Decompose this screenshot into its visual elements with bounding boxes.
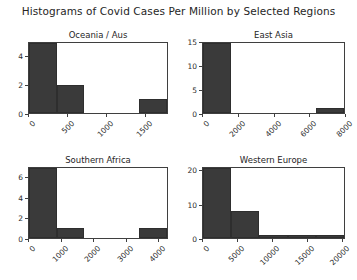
histogram-bar [288,235,316,238]
bar-series [29,168,167,238]
y-tick-label: 10 [178,200,197,209]
y-tick-label: 6 [4,173,23,182]
y-tick-mark [25,85,28,86]
x-tick-mark [345,114,346,117]
x-tick-mark [202,239,203,242]
histogram-bar [57,85,85,113]
x-tick-mark [145,114,146,117]
histogram-bar [139,99,167,113]
x-tick-mark [272,239,273,242]
histogram-bar [259,235,287,238]
figure-title: Histograms of Covid Cases Per Million by… [0,5,357,17]
histogram-bar [29,43,57,113]
x-tick-mark [93,239,94,242]
bar-series [203,43,344,113]
y-tick-mark [25,177,28,178]
x-tick-mark [309,114,310,117]
subplot-title: Southern Africa [28,155,168,165]
x-tick-mark [238,114,239,117]
bar-series [203,168,344,238]
y-tick-label: 10 [178,62,197,71]
x-tick-mark [158,239,159,242]
y-tick-label: 2 [4,81,23,90]
y-tick-mark [199,170,202,171]
y-tick-mark [199,66,202,67]
y-tick-label: 0 [4,235,23,244]
y-tick-label: 4 [4,193,23,202]
subplot-title: East Asia [202,30,345,40]
x-tick-label: 0 [163,244,212,280]
y-tick-mark [199,42,202,43]
x-tick-mark [274,114,275,117]
y-tick-mark [25,56,28,57]
subplot-2: East Asia05101502000400060008000 [202,30,345,154]
bar-series [29,43,167,113]
histogram-bar [316,108,344,113]
x-tick-mark [28,114,29,117]
x-tick-mark [342,239,343,242]
subplot-title: Western Europe [202,155,345,165]
x-tick-mark [106,114,107,117]
y-tick-mark [25,218,28,219]
y-tick-label: 15 [178,38,197,47]
x-tick-mark [126,239,127,242]
y-tick-mark [25,198,28,199]
histogram-bar [57,228,85,238]
y-tick-label: 2 [4,214,23,223]
plot-area [202,167,345,239]
histogram-bar [203,43,231,113]
histogram-bar [231,211,259,238]
x-tick-mark [307,239,308,242]
y-tick-mark [199,205,202,206]
y-tick-label: 5 [178,86,197,95]
y-tick-label: 0 [178,110,197,119]
subplot-3: Southern Africa024601000200030004000 [28,155,168,279]
subplot-4: Western Europe0102005000100001500020000 [202,155,345,279]
subplot-1: Oceania / Aus024050010001500 [28,30,168,154]
y-tick-label: 0 [178,235,197,244]
x-tick-mark [202,114,203,117]
plot-area [28,42,168,114]
y-tick-label: 4 [4,52,23,61]
y-tick-label: 0 [4,110,23,119]
plot-area [202,42,345,114]
histogram-bar [203,168,231,238]
histogram-bar [316,235,344,238]
x-tick-mark [28,239,29,242]
x-tick-mark [61,239,62,242]
y-tick-mark [199,90,202,91]
histogram-bar [29,168,57,238]
histogram-bar [139,228,167,238]
y-tick-label: 20 [178,166,197,175]
subplot-title: Oceania / Aus [28,30,168,40]
x-tick-mark [237,239,238,242]
figure-canvas: Histograms of Covid Cases Per Million by… [0,0,357,280]
x-tick-mark [67,114,68,117]
plot-area [28,167,168,239]
